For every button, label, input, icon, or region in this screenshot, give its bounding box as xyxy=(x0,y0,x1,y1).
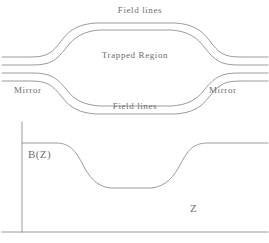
y-axis-label: B(Z) xyxy=(28,149,51,160)
magnetic-mirror-figure: Field lines Trapped Region Mirror Mirror… xyxy=(0,0,269,243)
trapped-region-label: Trapped Region xyxy=(102,51,168,60)
bz-curve xyxy=(22,143,268,188)
figure-drawing xyxy=(0,0,269,243)
mirror-left-label: Mirror xyxy=(14,86,42,95)
field-lines-top-label: Field lines xyxy=(118,6,162,15)
x-axis-label: Z xyxy=(190,203,197,214)
mirror-right-label: Mirror xyxy=(209,86,237,95)
plot-axes-group xyxy=(2,122,268,232)
field-lines-bottom-label: Field lines xyxy=(113,102,157,111)
